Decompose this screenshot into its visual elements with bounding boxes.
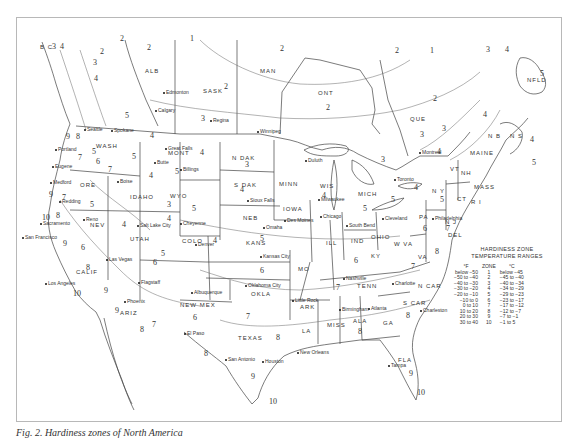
city-marker: Eugene: [52, 163, 72, 169]
region-label-ill: ILL: [326, 240, 337, 246]
zone-number: 10: [480, 320, 498, 326]
city-marker: Medford: [50, 179, 71, 185]
region-label-mich: MICH: [358, 191, 377, 197]
zone-number-label: 10: [417, 388, 425, 397]
city-marker: Philadelphia: [432, 215, 462, 221]
zone-number-label: 5: [260, 234, 264, 243]
region-label-mass: MASS: [474, 184, 495, 190]
zone-number-label: 9: [63, 239, 67, 248]
zone-number-label: 5: [90, 200, 94, 209]
zone-number-label: 4: [122, 220, 126, 229]
city-marker: Chicago: [320, 213, 341, 219]
region-label-ind: IND: [351, 238, 364, 244]
city-marker: Kansas City: [260, 253, 290, 259]
city-marker: Redding: [59, 198, 81, 204]
zone-number-label: 5: [175, 167, 179, 176]
city-marker: Boise: [117, 178, 133, 184]
fahrenheit-range: 30 to 40: [452, 320, 480, 326]
region-label-ala: ALA: [353, 318, 367, 324]
zone-number-label: 6: [260, 266, 264, 275]
region-label-ns: N S: [510, 133, 523, 139]
zone-number-label: 8: [56, 211, 60, 220]
zone-number-label: 9: [49, 190, 53, 199]
region-label-sdak: S DAK: [234, 182, 257, 188]
city-marker: Cheyenne: [180, 220, 206, 226]
city-marker: New Orleans: [297, 349, 329, 355]
zone-number-label: 2: [224, 82, 228, 91]
city-marker: Great Falls: [165, 145, 192, 151]
city-marker: Cleveland: [382, 215, 407, 221]
hardiness-zone-legend: HARDINESS ZONE TEMPERATURE RANGES °F ZON…: [452, 246, 562, 326]
zone-number-label: 4: [94, 74, 98, 83]
region-label-ky: KY: [371, 253, 381, 259]
city-marker: Tampa: [388, 362, 406, 368]
region-label-ore: ORE: [80, 182, 96, 188]
figure-caption: Fig. 2. Hardiness zones of North America: [16, 427, 183, 438]
legend-title-2: TEMPERATURE RANGES: [452, 253, 562, 260]
zone-number-label: 10: [269, 397, 277, 406]
zone-number-label: 5: [161, 249, 165, 258]
zone-number-label: 9: [104, 286, 108, 295]
region-label-wis: WIS: [320, 183, 334, 189]
legend-title-1: HARDINESS ZONE: [452, 246, 562, 253]
city-marker: Winnipeg: [257, 128, 281, 134]
city-marker: Birmingham: [339, 306, 369, 312]
region-label-wyo: WYO: [170, 193, 187, 199]
zone-number-label: 4: [60, 42, 64, 51]
zone-number-label: 7: [336, 283, 340, 292]
zone-number-label: 3: [245, 160, 249, 169]
zone-number-label: 2: [326, 103, 330, 112]
region-label-ga: GA: [383, 320, 394, 326]
zone-number-label: 3: [486, 45, 490, 54]
zone-number-label: 6: [96, 157, 100, 166]
zone-number-label: 7: [78, 153, 82, 162]
city-marker: Little Rock: [292, 297, 318, 303]
zone-number-label: 3: [52, 42, 56, 51]
region-label-del: DEL: [448, 232, 463, 238]
zone-number-label: 3: [420, 130, 424, 139]
zone-number-label: 4: [414, 183, 418, 192]
city-marker: Charleston: [420, 307, 447, 313]
region-label-wash: WASH: [96, 143, 118, 149]
city-marker: El Paso: [184, 330, 204, 336]
region-label-nh: NH: [461, 170, 472, 176]
city-marker: Reno: [83, 216, 98, 222]
city-marker: Atlanta: [368, 305, 387, 311]
zone-number-label: 5: [363, 204, 367, 213]
city-marker: Sioux Falls: [247, 197, 274, 203]
zone-number-label: 9: [409, 369, 413, 378]
city-marker: Edmonton: [163, 89, 189, 95]
lake-ontario: [398, 183, 422, 189]
zone-number-label: 3: [93, 58, 97, 67]
city-marker: Salt Lake City: [137, 222, 171, 228]
region-label-maine: MAINE: [470, 150, 494, 156]
region-label-va: VA: [418, 254, 428, 260]
legend-table: °F ZONE °C below −501below −45−50 to −40…: [452, 264, 526, 326]
zone-number-label: 1: [190, 34, 194, 43]
region-label-ont: ONT: [318, 90, 334, 96]
city-marker: Albuquerque: [191, 289, 222, 295]
city-marker: Montreal: [419, 149, 441, 155]
city-marker: Spokane: [111, 127, 134, 133]
zone-number-label: 5: [132, 152, 136, 161]
zone-number-label: 2: [433, 94, 437, 103]
zone-number-label: 2: [100, 47, 104, 56]
zone-number-label: 4: [530, 135, 534, 144]
zone-number-label: 10: [73, 289, 81, 298]
region-label-tenn: TENN: [357, 283, 377, 289]
region-label-ariz: ARIZ: [120, 310, 138, 316]
region-label-iowa: IOWA: [283, 206, 303, 212]
zone-number-label: 8: [358, 327, 362, 336]
zone-number-label: 5: [391, 195, 395, 204]
city-marker: Duluth: [305, 157, 322, 163]
region-label-ndak: N DAK: [232, 155, 255, 161]
zone-number-label: 4: [505, 45, 509, 54]
city-marker: Houston: [262, 358, 284, 364]
region-label-que: QUE: [410, 116, 426, 122]
zone-number-label: 7: [108, 165, 112, 174]
zone-number-label: 6: [81, 243, 85, 252]
man-ont-line: [280, 58, 305, 134]
bc-alb-line: [125, 40, 158, 126]
region-label-man: MAN: [260, 68, 276, 74]
zone-number-label: 4: [483, 110, 487, 119]
